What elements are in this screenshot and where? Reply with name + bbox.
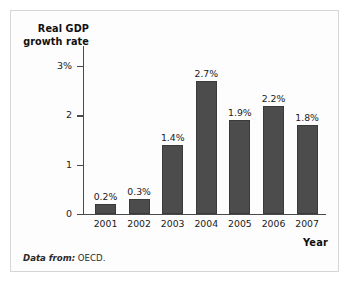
x-axis-line <box>83 214 326 215</box>
bar-2001[interactable] <box>95 204 116 214</box>
y-tick-label-1: 1 <box>66 160 72 170</box>
bar-value-2007: 1.8% <box>284 113 331 123</box>
bar-value-2003: 1.4% <box>149 133 196 143</box>
x-axis-title: Year <box>303 237 328 248</box>
bar-chart-plot: Real GDP growth rate 0 1 2 3% 0.2% 0.3% … <box>11 11 340 273</box>
bar-2006[interactable] <box>263 106 284 215</box>
bar-value-2006: 2.2% <box>250 94 297 104</box>
y-tick-3 <box>77 66 84 67</box>
y-axis-line <box>83 46 84 215</box>
y-tick-label-2: 2 <box>66 110 72 120</box>
bar-2004[interactable] <box>196 81 217 214</box>
bar-2003[interactable] <box>162 145 183 214</box>
y-axis-title: Real GDP growth rate <box>23 23 89 48</box>
bar-value-2005: 1.9% <box>216 108 263 118</box>
bar-value-2004: 2.7% <box>183 69 230 79</box>
y-tick-label-3: 3% <box>57 61 72 71</box>
y-tick-0 <box>77 214 84 215</box>
bar-2007[interactable] <box>297 125 318 214</box>
y-tick-label-0: 0 <box>66 209 72 219</box>
y-axis-title-line-2: growth rate <box>23 36 89 49</box>
source-note-value: OECD. <box>75 253 105 263</box>
bar-2005[interactable] <box>229 120 250 214</box>
chart-figure: Real GDP growth rate 0 1 2 3% 0.2% 0.3% … <box>10 10 339 272</box>
y-tick-2 <box>77 115 84 116</box>
source-note-lead: Data from: <box>23 253 75 263</box>
x-category-label-2007: 2007 <box>284 218 331 229</box>
source-note: Data from: OECD. <box>23 253 105 263</box>
y-tick-1 <box>77 165 84 166</box>
bar-2002[interactable] <box>129 199 150 214</box>
bar-value-2002: 0.3% <box>116 187 163 197</box>
y-axis-title-line-1: Real GDP <box>23 23 89 36</box>
